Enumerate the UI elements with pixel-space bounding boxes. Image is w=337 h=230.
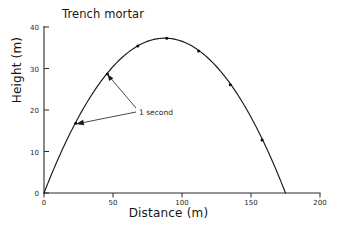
y-axis-ticks [44,27,49,193]
y-axis-title-container: Height (m) [6,10,26,130]
y-tick-label-20: 20 [30,107,39,115]
y-tick-label-10: 10 [30,149,39,157]
y-tick-label-30: 30 [30,66,39,74]
data-point-marker [106,72,109,75]
data-point-marker [136,45,139,48]
y-tick-label-0: 0 [35,190,39,198]
data-point-marker [197,50,200,53]
data-point-marker [74,122,77,125]
y-axis-title: Height (m) [10,37,24,104]
y-tick-label-40: 40 [30,24,39,32]
x-axis-ticks [44,193,320,198]
x-axis-title: Distance (m) [0,206,337,220]
annotation-1-second: 1 second [139,108,173,117]
chart-figure: Trench mortar 0 10 20 30 40 0 50 [0,0,337,230]
data-point-markers [74,37,263,142]
annotation-leaders [76,74,136,125]
data-point-marker [261,138,264,141]
data-point-marker [165,37,168,40]
data-point-marker [229,83,232,86]
